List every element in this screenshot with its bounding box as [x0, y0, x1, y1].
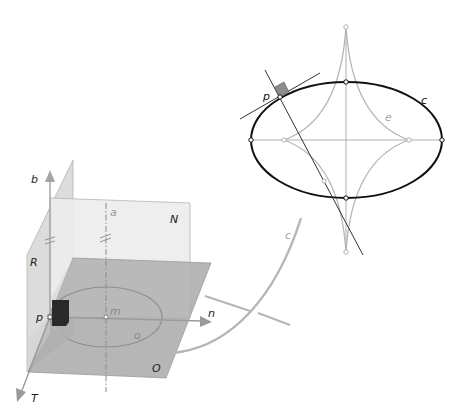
binormal-arrowhead-icon: [45, 170, 55, 182]
label-p-right: p: [262, 90, 270, 103]
label-R: R: [30, 256, 38, 269]
point-m-marker: [104, 315, 108, 319]
label-p-left: p: [35, 311, 43, 324]
tangent-arrowhead-icon: [16, 388, 26, 402]
ellipse-evolute-figure: p c e: [240, 25, 444, 255]
label-o: o: [134, 329, 141, 342]
label-N: N: [170, 213, 178, 226]
right-angle-box: [52, 300, 69, 326]
point-p-marker: [48, 315, 52, 319]
label-e: e: [385, 111, 392, 124]
label-O: O: [152, 362, 161, 375]
label-a: a: [110, 206, 117, 219]
frenet-frame-figure: b a N R p m n o c O T: [16, 160, 301, 405]
label-n: n: [208, 307, 215, 320]
label-T: T: [31, 392, 39, 405]
label-c-left: c: [285, 229, 291, 242]
curve-c-crossing-line: [205, 296, 290, 325]
label-c-right: c: [421, 94, 427, 107]
label-b: b: [31, 173, 38, 186]
label-m: m: [110, 305, 121, 318]
diagram-canvas: b a N R p m n o c O T: [0, 0, 470, 418]
